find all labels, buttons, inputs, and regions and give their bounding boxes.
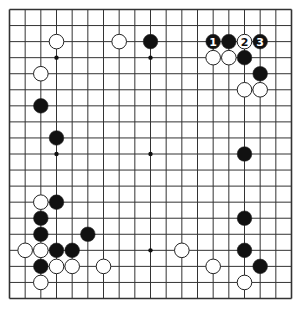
white-stone [206, 50, 221, 65]
black-stone-disc [253, 66, 268, 81]
black-stone: 1 [206, 34, 221, 49]
white-stone [49, 259, 64, 274]
star-point [148, 248, 152, 252]
white-stone-disc [253, 82, 268, 97]
white-stone-disc [34, 275, 49, 290]
black-stone [34, 99, 49, 114]
black-stone-disc [34, 259, 49, 274]
white-stone-disc [34, 195, 49, 210]
move-number-label: 3 [256, 36, 264, 49]
star-point [54, 55, 58, 59]
white-stone-disc [34, 243, 49, 258]
black-stone [65, 243, 80, 258]
black-stone-disc [237, 243, 252, 258]
white-stone [112, 34, 127, 49]
black-stone [49, 131, 64, 146]
star-point [148, 55, 152, 59]
black-stone-disc [81, 227, 96, 242]
white-stone-disc [237, 82, 252, 97]
black-stone-disc [143, 34, 158, 49]
black-stone-disc [34, 99, 49, 114]
white-stone [222, 50, 237, 65]
white-stone [34, 66, 49, 81]
white-stone-disc [237, 275, 252, 290]
move-number-label: 2 [241, 36, 249, 49]
white-stone-disc [175, 243, 190, 258]
black-stone-disc [49, 131, 64, 146]
white-stone-disc [206, 259, 221, 274]
black-stone-disc [34, 227, 49, 242]
black-stone-disc [237, 50, 252, 65]
white-stone-disc [34, 66, 49, 81]
white-stone: 2 [237, 34, 252, 49]
white-stone [253, 82, 268, 97]
white-stone [65, 259, 80, 274]
white-stone [237, 275, 252, 290]
white-stone [96, 259, 111, 274]
white-stone [34, 275, 49, 290]
white-stone [34, 195, 49, 210]
white-stone-disc [18, 243, 33, 258]
stones-layer: 123 [18, 34, 268, 289]
white-stone [237, 82, 252, 97]
white-stone-disc [49, 259, 64, 274]
star-point [148, 152, 152, 156]
white-stone [175, 243, 190, 258]
black-stone-disc [253, 259, 268, 274]
black-stone [34, 211, 49, 226]
white-stone-disc [206, 50, 221, 65]
black-stone-disc [49, 243, 64, 258]
black-stone [81, 227, 96, 242]
white-stone-disc [96, 259, 111, 274]
star-point [54, 152, 58, 156]
black-stone-disc [237, 211, 252, 226]
black-stone [253, 259, 268, 274]
black-stone: 3 [253, 34, 268, 49]
black-stone [237, 147, 252, 162]
black-stone-disc [34, 211, 49, 226]
white-stone [18, 243, 33, 258]
black-stone-disc [49, 195, 64, 210]
black-stone [34, 227, 49, 242]
black-stone [34, 259, 49, 274]
black-stone [237, 50, 252, 65]
white-stone-disc [112, 34, 127, 49]
white-stone-disc [49, 34, 64, 49]
black-stone [49, 195, 64, 210]
white-stone-disc [222, 50, 237, 65]
black-stone-disc [65, 243, 80, 258]
black-stone [237, 243, 252, 258]
black-stone [143, 34, 158, 49]
black-stone-disc [237, 147, 252, 162]
black-stone-disc [222, 34, 237, 49]
white-stone [206, 259, 221, 274]
go-board: 123 [0, 0, 299, 309]
black-stone [237, 211, 252, 226]
black-stone [253, 66, 268, 81]
move-number-label: 1 [209, 36, 217, 49]
white-stone [49, 34, 64, 49]
white-stone-disc [65, 259, 80, 274]
black-stone [49, 243, 64, 258]
black-stone [222, 34, 237, 49]
white-stone [34, 243, 49, 258]
